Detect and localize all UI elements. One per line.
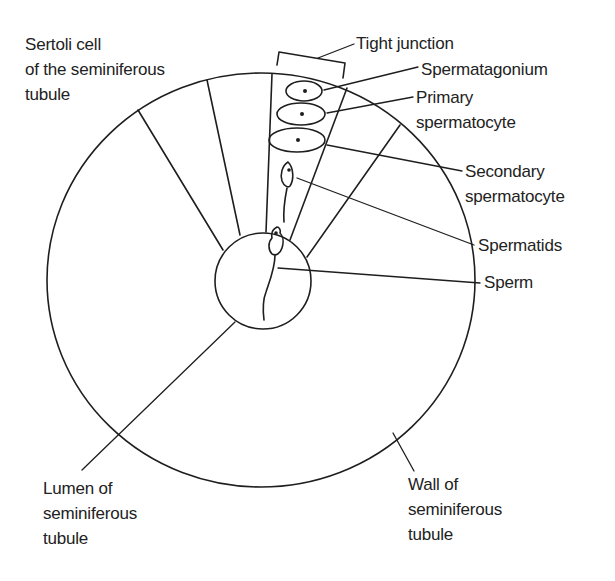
tight-junction-bracket (277, 44, 354, 78)
label-line: tubule (43, 526, 137, 551)
label-line: tubule (25, 82, 165, 107)
sertoli-cell-boundaries (138, 74, 400, 257)
label-sperm: Sperm (484, 270, 533, 295)
label-primary-spermatocyte: Primary spermatocyte (416, 85, 516, 135)
label-spermatids: Spermatids (478, 233, 562, 258)
label-tight-junction: Tight junction (356, 31, 454, 56)
label-line: Spermatagonium (421, 57, 548, 82)
label-line: Primary (416, 85, 516, 110)
primary-spermatocyte-cell (277, 103, 325, 125)
label-line: tubule (408, 522, 502, 547)
label-line: spermatocyte (465, 184, 565, 209)
label-lumen: Lumen of seminiferous tubule (43, 476, 137, 551)
label-line: Sperm (484, 270, 533, 295)
label-line: Spermatids (478, 233, 562, 258)
secondary-spermatocyte-cell (269, 128, 325, 152)
spermatagonium-cell (286, 81, 322, 101)
label-secondary-spermatocyte: Secondary spermatocyte (465, 159, 565, 209)
spermatid-cell (281, 162, 293, 222)
label-line: Secondary (465, 159, 565, 184)
label-line: of the seminiferous (25, 57, 165, 82)
label-wall: Wall of seminiferous tubule (408, 472, 502, 547)
sperm-cell (263, 227, 283, 320)
label-line: seminiferous (408, 497, 502, 522)
label-line: Tight junction (356, 31, 454, 56)
label-line: Sertoli cell (25, 32, 165, 57)
label-spermatagonium: Spermatagonium (421, 57, 548, 82)
label-line: Wall of (408, 472, 502, 497)
label-line: seminiferous (43, 501, 137, 526)
label-line: Lumen of (43, 476, 137, 501)
label-line: spermatocyte (416, 110, 516, 135)
label-sertoli-cell: Sertoli cell of the seminiferous tubule (25, 32, 165, 107)
tubule-wall-outline (47, 73, 475, 487)
